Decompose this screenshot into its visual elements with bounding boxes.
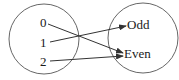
mapping-diagram: 0 1 2 Odd Even bbox=[0, 0, 179, 80]
arrow-0-to-even bbox=[48, 24, 123, 53]
domain-element-1: 1 bbox=[40, 35, 47, 50]
domain-element-0: 0 bbox=[40, 15, 47, 30]
domain-element-2: 2 bbox=[40, 54, 47, 69]
codomain-element-even: Even bbox=[124, 46, 151, 61]
arrow-2-to-even bbox=[50, 56, 123, 61]
codomain-element-odd: Odd bbox=[127, 17, 150, 32]
codomain-set-circle bbox=[108, 3, 178, 73]
